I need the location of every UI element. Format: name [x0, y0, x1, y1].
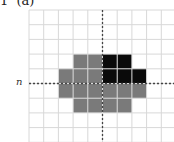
cell-gray [58, 69, 73, 84]
cell-gray [73, 98, 88, 113]
cell-gray [88, 98, 103, 113]
cell-gray [117, 98, 132, 113]
pixel-grid-diagram [0, 0, 174, 142]
axis-label-n: n [16, 76, 22, 87]
cell-gray [103, 84, 118, 99]
cell-gray [73, 69, 88, 84]
cell-gray [73, 54, 88, 69]
cell-gray [88, 84, 103, 99]
cell-black [103, 69, 118, 84]
cell-black [117, 69, 132, 84]
cell-black [117, 54, 132, 69]
cell-gray [73, 84, 88, 99]
cell-gray [103, 98, 118, 113]
cell-gray [88, 69, 103, 84]
cell-gray [117, 84, 132, 99]
cell-black [132, 69, 147, 84]
cell-gray [58, 84, 73, 99]
cell-black [103, 54, 118, 69]
cell-gray [132, 84, 147, 99]
cell-gray [88, 54, 103, 69]
